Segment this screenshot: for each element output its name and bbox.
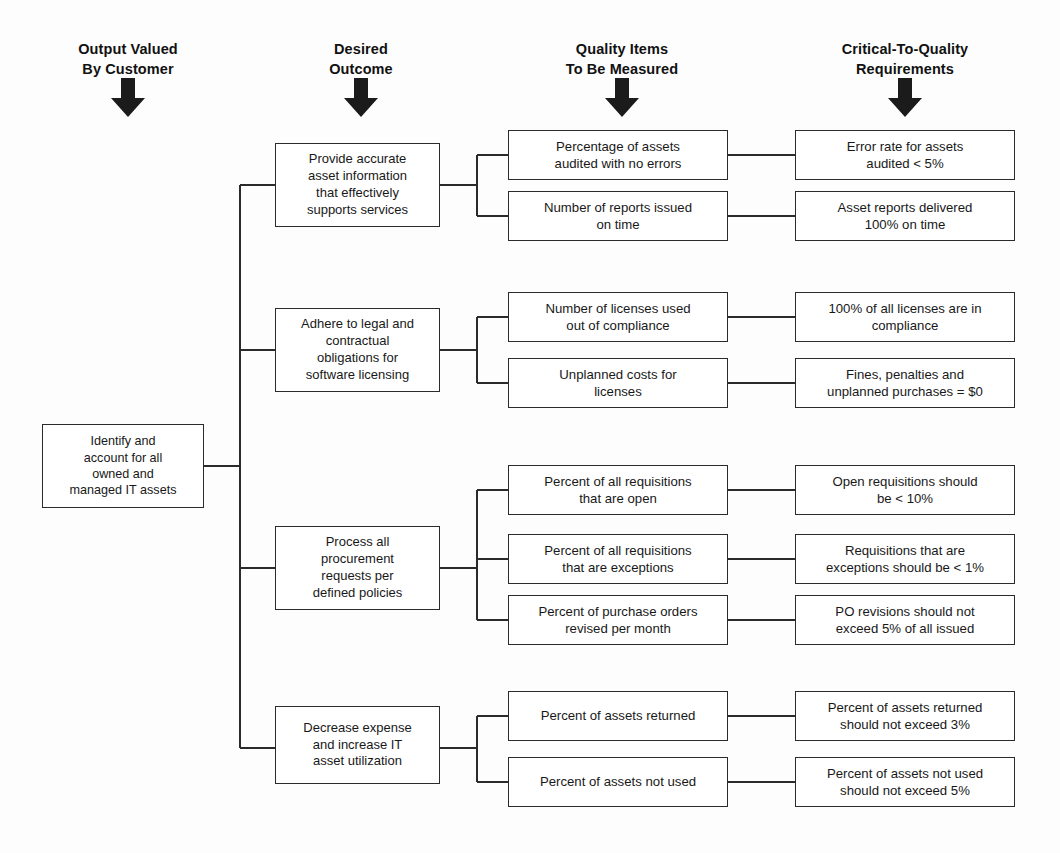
ctq-node-2-2[interactable]: Fines, penalties and unplanned purchases… xyxy=(795,358,1015,408)
ctq-node-1-2[interactable]: Asset reports delivered 100% on time xyxy=(795,191,1015,241)
ctq-node-3-1[interactable]: Open requisitions should be < 10% xyxy=(795,465,1015,515)
down-arrow-icon-ctq xyxy=(887,78,923,118)
column-header-outcome: Desired Outcome xyxy=(266,40,456,79)
outcome-node-4[interactable]: Decrease expense and increase IT asset u… xyxy=(275,706,440,784)
down-arrow-icon-outcome xyxy=(343,78,379,118)
column-header-output: Output Valued By Customer xyxy=(22,40,234,79)
down-arrow-icon-output xyxy=(110,78,146,118)
outcome-node-2[interactable]: Adhere to legal and contractual obligati… xyxy=(275,308,440,392)
quality-node-4-1[interactable]: Percent of assets returned xyxy=(508,691,728,741)
column-header-ctq: Critical-To-Quality Requirements xyxy=(790,40,1020,79)
column-header-quality: Quality Items To Be Measured xyxy=(512,40,732,79)
quality-node-3-1[interactable]: Percent of all requisitions that are ope… xyxy=(508,465,728,515)
down-arrow-icon-quality xyxy=(604,78,640,118)
ctq-tree-diagram: Output Valued By Customer Desired Outcom… xyxy=(0,0,1060,853)
quality-node-4-2[interactable]: Percent of assets not used xyxy=(508,757,728,807)
ctq-node-3-3[interactable]: PO revisions should not exceed 5% of all… xyxy=(795,595,1015,645)
quality-node-3-3[interactable]: Percent of purchase orders revised per m… xyxy=(508,595,728,645)
quality-node-1-2[interactable]: Number of reports issued on time xyxy=(508,191,728,241)
ctq-node-2-1[interactable]: 100% of all licenses are in compliance xyxy=(795,292,1015,342)
ctq-node-4-2[interactable]: Percent of assets not used should not ex… xyxy=(795,757,1015,807)
quality-node-2-1[interactable]: Number of licenses used out of complianc… xyxy=(508,292,728,342)
quality-node-3-2[interactable]: Percent of all requisitions that are exc… xyxy=(508,534,728,584)
ctq-node-4-1[interactable]: Percent of assets returned should not ex… xyxy=(795,691,1015,741)
ctq-node-1-1[interactable]: Error rate for assets audited < 5% xyxy=(795,130,1015,180)
root-node[interactable]: Identify and account for all owned and m… xyxy=(42,424,204,508)
ctq-node-3-2[interactable]: Requisitions that are exceptions should … xyxy=(795,534,1015,584)
quality-node-1-1[interactable]: Percentage of assets audited with no err… xyxy=(508,130,728,180)
quality-node-2-2[interactable]: Unplanned costs for licenses xyxy=(508,358,728,408)
outcome-node-1[interactable]: Provide accurate asset information that … xyxy=(275,143,440,227)
outcome-node-3[interactable]: Process all procurement requests per def… xyxy=(275,526,440,610)
